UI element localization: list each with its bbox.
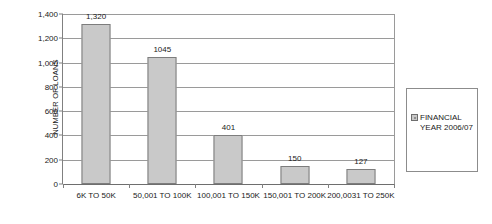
y-axis-tick-label: 600 [45, 107, 58, 116]
legend: FINANCIAL YEAR 2006/07 [406, 88, 478, 172]
x-axis-tick-mark [129, 184, 130, 188]
x-axis-tick-mark [63, 184, 64, 188]
gridline [63, 184, 394, 185]
x-axis-tick-mark [195, 184, 196, 188]
x-axis-tick-mark [328, 184, 329, 188]
y-axis-tick-label: 1,200 [38, 34, 58, 43]
legend-item-label: FINANCIAL YEAR 2006/07 [420, 113, 473, 133]
bar-value-label: 1045 [153, 45, 171, 54]
bar-value-label: 150 [288, 154, 301, 163]
x-axis-tick-mark [262, 184, 263, 188]
bar [280, 166, 309, 184]
bar-chart: NUMBER OF LOANS 02004006008001,0001,2001… [0, 0, 492, 224]
y-axis-tick-label: 800 [45, 82, 58, 91]
bar [346, 169, 375, 184]
bar-category-group: 1,3206K TO 50K [63, 14, 129, 184]
bar [82, 24, 111, 184]
bar-value-label: 401 [222, 123, 235, 132]
x-axis-category-label: 150,001 TO 200K [259, 190, 331, 201]
bar [214, 135, 243, 184]
plot-area: NUMBER OF LOANS 02004006008001,0001,2001… [62, 14, 395, 184]
bar [148, 57, 177, 184]
x-axis-category-label: 100,001 TO 150K [192, 190, 264, 201]
x-axis-tick-mark [394, 184, 395, 188]
x-axis-category-label: 50,001 TO 100K [126, 190, 198, 201]
legend-swatch-icon [411, 114, 418, 121]
y-axis-tick-label: 200 [45, 155, 58, 164]
bar-value-label: 1,320 [86, 12, 106, 21]
legend-item: FINANCIAL YEAR 2006/07 [411, 113, 473, 133]
bar-value-label: 127 [354, 157, 367, 166]
bar-category-group: 401100,001 TO 150K [195, 14, 261, 184]
x-axis-category-label: 200,0031 TO 250K [325, 190, 397, 201]
x-axis-category-label: 6K TO 50K [60, 190, 132, 201]
y-axis-tick-label: 400 [45, 131, 58, 140]
bar-category-group: 127200,0031 TO 250K [328, 14, 394, 184]
bar-category-group: 150150,001 TO 200K [262, 14, 328, 184]
bar-category-group: 104550,001 TO 100K [129, 14, 195, 184]
y-axis-tick-label: 0 [54, 180, 58, 189]
y-axis-tick-label: 1,400 [38, 10, 58, 19]
y-axis-tick-label: 1,000 [38, 58, 58, 67]
